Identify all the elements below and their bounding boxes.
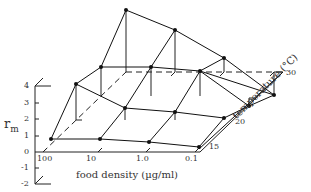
y-tick-label: 3 [24, 98, 29, 107]
col-1 [149, 58, 224, 142]
x-tick-label: 0.1 [185, 154, 198, 163]
y-tick-label: -2 [21, 179, 29, 188]
y-tick-label: 4 [24, 81, 29, 90]
y-tick-label: -1 [21, 163, 29, 172]
surface-wireframe [51, 10, 283, 149]
x-tick-label: 100 [37, 154, 52, 163]
col-100 [51, 10, 126, 139]
data-points [49, 8, 276, 149]
y-tick-label: 1 [24, 131, 29, 140]
row-20C [76, 84, 224, 118]
x-axis-title: food density (µg/ml) [76, 169, 178, 180]
x-tick-label: 10 [86, 154, 96, 163]
z-tick-label: 15 [209, 142, 219, 151]
y-axis-title: rm [4, 116, 19, 134]
y-tick-label: 2 [24, 114, 29, 123]
row-25C [101, 67, 249, 106]
col-10 [100, 30, 175, 139]
x-tick-label: 1.0 [136, 154, 149, 163]
y-tick-label: 0 [24, 147, 29, 156]
chart-surface [0, 0, 311, 192]
axes [35, 72, 283, 184]
row-15C [51, 139, 199, 147]
